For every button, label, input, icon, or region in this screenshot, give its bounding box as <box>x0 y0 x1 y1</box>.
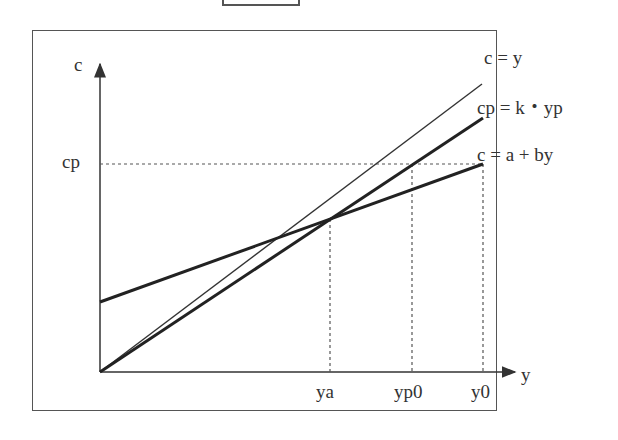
ya-tick-label: ya <box>316 382 334 401</box>
y0-tick-label: y0 <box>471 382 490 401</box>
label-c-eq-y: c = y <box>484 48 522 67</box>
yp0-tick-label: yp0 <box>394 382 423 401</box>
line-c-eq-a-by <box>100 164 483 302</box>
cp-tick-label: cp <box>62 152 80 171</box>
label-cp-eq-kyp: cp = k・yp <box>477 98 563 117</box>
label-c-eq-a-by: c = a + by <box>477 145 553 164</box>
x-axis-label: y <box>521 365 531 384</box>
line-c-eq-y <box>100 84 482 372</box>
line-cp-eq-kyp <box>100 118 483 372</box>
y-axis-label: c <box>74 55 82 74</box>
